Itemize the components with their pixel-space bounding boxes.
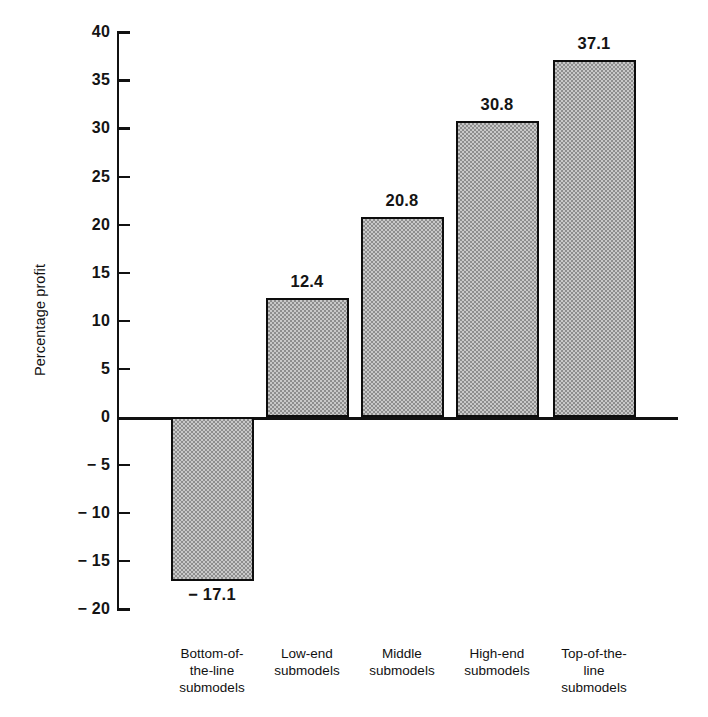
bar[interactable] (266, 298, 349, 417)
bar[interactable] (553, 60, 636, 417)
bar-value-label: 37.1 (578, 34, 611, 53)
bar-value-label: − 17.1 (188, 585, 236, 604)
bar-value-label: 12.4 (291, 272, 324, 291)
bar-value-label: 30.8 (481, 95, 514, 114)
x-category-label-line: submodels (147, 679, 277, 696)
x-category-label-line: line (529, 662, 659, 679)
bar-value-label: 20.8 (386, 191, 419, 210)
bars-group: − 17.112.420.830.837.1 (0, 0, 708, 717)
bar[interactable] (361, 217, 444, 417)
x-category-label: Top-of-the-linesubmodels (529, 645, 659, 696)
x-category-label-line: submodels (529, 679, 659, 696)
bar-chart: Percentage profit 4035302520151050− 5− 1… (0, 0, 708, 717)
bar[interactable] (171, 417, 254, 581)
bar[interactable] (456, 121, 539, 417)
x-category-label-line: Top-of-the- (529, 645, 659, 662)
